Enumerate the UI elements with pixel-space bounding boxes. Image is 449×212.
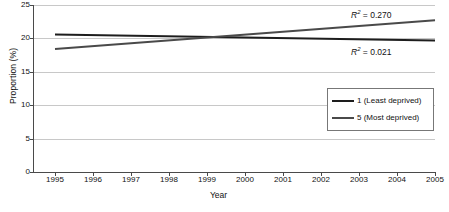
legend-item: 5 (Most deprived)	[332, 111, 432, 125]
r2-annotation-least-deprived: R2 = 0.021	[351, 46, 391, 57]
r2-annotation-most-deprived: R2 = 0.270	[351, 9, 391, 20]
legend-swatch-line	[332, 117, 354, 119]
legend-swatch-line	[332, 100, 354, 102]
x-axis-title: Year	[0, 190, 437, 200]
r2-value: = 0.021	[360, 47, 391, 57]
r2-value: = 0.270	[360, 10, 391, 20]
legend-item-label: 1 (Least deprived)	[357, 96, 421, 106]
legend: 1 (Least deprived) 5 (Most deprived)	[327, 88, 434, 131]
legend-item-label: 5 (Most deprived)	[357, 113, 419, 123]
legend-item: 1 (Least deprived)	[332, 94, 432, 108]
